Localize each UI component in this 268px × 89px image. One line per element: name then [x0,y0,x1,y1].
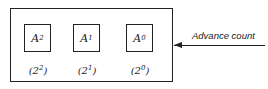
register-a0: A0 [126,24,153,52]
weight-a2: (22) [18,64,58,76]
register-a1: A1 [73,24,100,52]
input-arrow-line [174,45,265,46]
weight-a1: (21) [67,64,107,76]
advance-count-label: Advance count [192,30,255,41]
arrow-head-icon [174,42,182,48]
weight-a0: (20) [120,64,160,76]
register-a2: A2 [24,24,51,52]
